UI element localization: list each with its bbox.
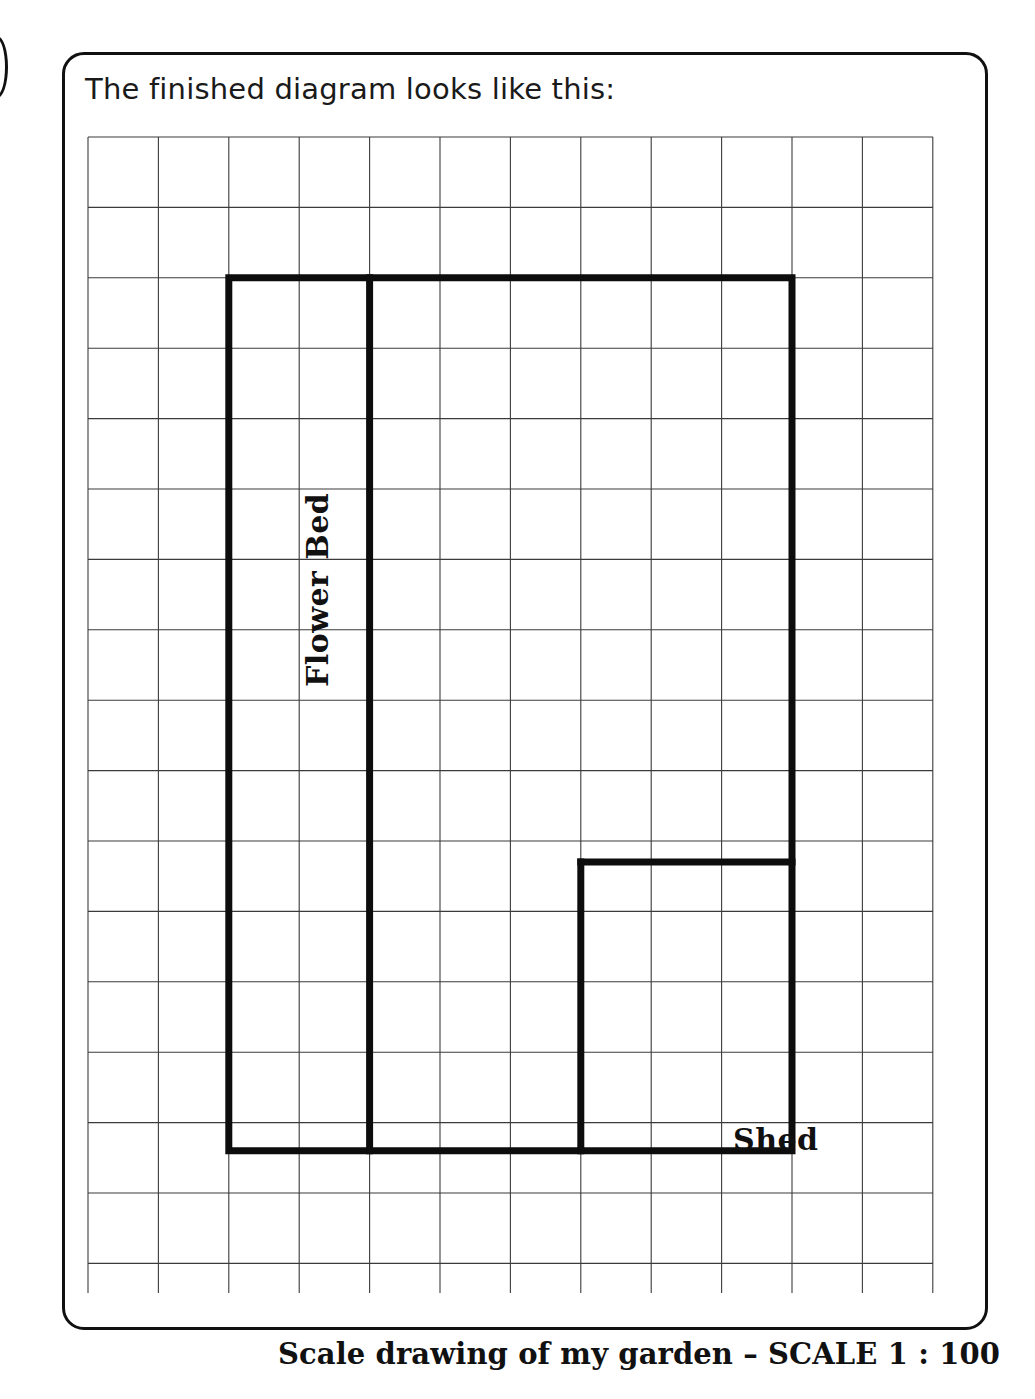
page-heading: The finished diagram looks like this: <box>85 72 615 106</box>
diagram-caption: Scale drawing of my garden – SCALE 1 : 1… <box>271 1335 1007 1373</box>
label-flower-bed: Flower Bed <box>300 493 335 687</box>
label-shed: Shed <box>733 1122 819 1157</box>
page-edge-marker <box>0 36 8 98</box>
grid-lines <box>88 137 933 1293</box>
diagram-canvas <box>88 137 933 1293</box>
scale-drawing-diagram: Flower Bed Shed Scale drawing of my gard… <box>88 137 933 1293</box>
